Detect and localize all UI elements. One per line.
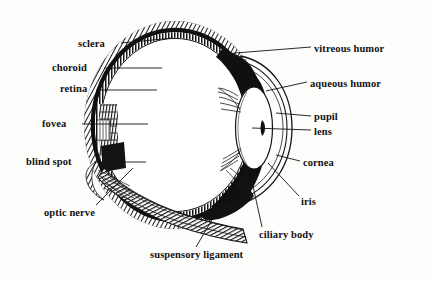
leader-ciliary xyxy=(253,186,262,227)
label-vitreous-humor: vitreous humor xyxy=(314,44,384,55)
label-choroid: choroid xyxy=(52,63,87,74)
label-ciliary-body: ciliary body xyxy=(259,230,314,241)
label-pupil: pupil xyxy=(314,112,338,123)
label-iris: iris xyxy=(301,197,316,208)
label-cornea: cornea xyxy=(303,158,334,169)
label-lens: lens xyxy=(314,127,332,138)
leader-pupil xyxy=(276,113,311,116)
eye-anatomy-figure: sclerachoroidretinafoveablind spotoptic … xyxy=(0,0,433,281)
label-retina: retina xyxy=(60,84,87,95)
blind-spot-mass xyxy=(101,142,126,172)
label-optic-nerve: optic nerve xyxy=(44,208,95,219)
leader-aqueous xyxy=(266,82,307,91)
label-suspensory-ligament: suspensory ligament xyxy=(150,250,243,261)
label-fovea: fovea xyxy=(42,119,66,130)
label-aqueous-humor: aqueous humor xyxy=(310,79,381,90)
leader-iris xyxy=(268,163,299,196)
label-sclera: sclera xyxy=(78,39,105,50)
label-blind-spot: blind spot xyxy=(26,157,72,168)
